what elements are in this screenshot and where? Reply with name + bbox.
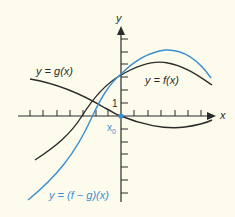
unit-label: 1: [112, 98, 118, 109]
x-axis-arrow-icon: [207, 112, 216, 120]
label-f: y = f(x): [144, 74, 179, 86]
x0-label: x0: [107, 122, 116, 135]
x0-point: [118, 113, 123, 118]
function-graph: x y 1 x0 y = g(x) y = f(x) y = (f − g)(x…: [0, 0, 235, 217]
label-f-minus-g: y = (f − g)(x): [48, 189, 109, 201]
x-axis-label: x: [219, 109, 226, 121]
y-axis-label: y: [115, 12, 123, 24]
label-g: y = g(x): [35, 65, 73, 77]
y-axis-arrow-icon: [117, 26, 125, 35]
